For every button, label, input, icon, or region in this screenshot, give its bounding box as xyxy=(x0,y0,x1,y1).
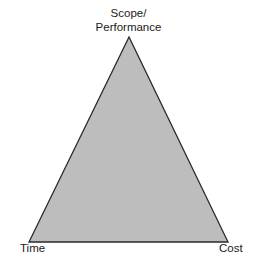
scope-label: Scope/ xyxy=(0,6,257,20)
vertex-label-scope-performance: Scope/ Performance xyxy=(0,6,257,34)
performance-label: Performance xyxy=(0,20,257,34)
vertex-label-time: Time xyxy=(20,241,45,255)
constraint-triangle xyxy=(29,37,228,242)
triangle-diagram xyxy=(0,0,257,267)
vertex-label-cost: Cost xyxy=(219,241,243,255)
